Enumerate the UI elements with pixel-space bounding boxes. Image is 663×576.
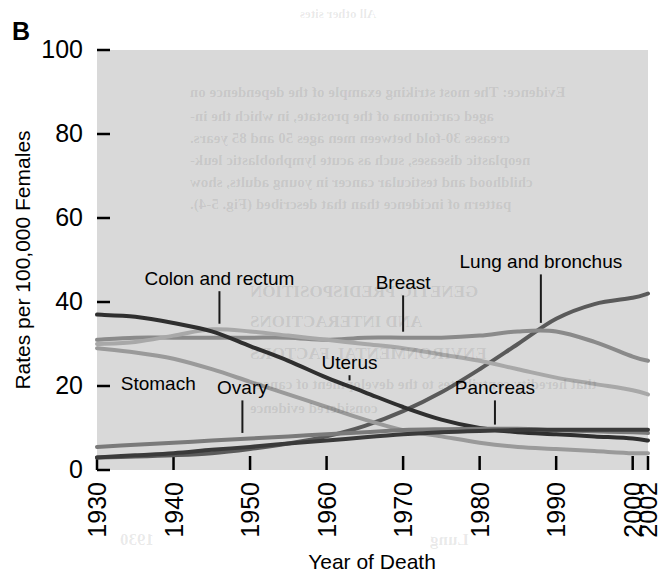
series-label-breast: Breast [376,272,432,293]
x-tick-label: 1960 [313,482,341,538]
x-tick-label: 1970 [389,482,417,538]
y-tick-label: 20 [55,371,83,399]
cancer-mortality-line-chart: B 020406080100 1930194019501960197019801… [0,0,663,576]
y-tick-label: 80 [55,119,83,147]
series-label-stomach: Stomach [121,373,196,394]
series-label-ovary: Ovary [217,377,268,398]
series-label-colon-and-rectum: Colon and rectum [144,268,294,289]
x-tick-label: 1950 [236,482,264,538]
x-tick-label: 2002 [634,482,662,538]
figure-panel-b: All other sites Evidence: The most strik… [0,0,663,576]
x-tick-label: 1990 [542,482,570,538]
x-tick-label: 1980 [466,482,494,538]
series-label-pancreas: Pancreas [455,377,535,398]
x-tick-label: 1940 [160,482,188,538]
y-tick-label: 0 [69,455,83,483]
y-tick-label: 100 [41,35,83,63]
panel-label: B [12,17,30,45]
series-label-lung-and-bronchus: Lung and bronchus [460,251,623,272]
x-tick-label: 1930 [83,482,111,538]
y-tick-label: 40 [55,287,83,315]
x-axis-title: Year of Death [308,550,436,573]
series-label-uterus: Uterus [322,352,378,373]
y-tick-label: 60 [55,203,83,231]
y-axis-title: Rates per 100,000 Females [11,130,34,389]
